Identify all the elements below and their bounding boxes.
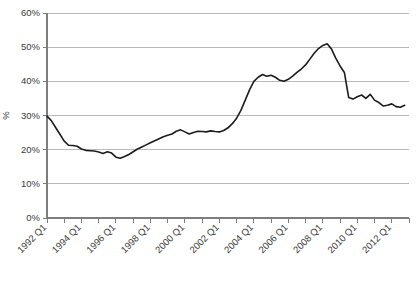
- y-tick-label-0: 0%: [26, 212, 40, 223]
- x-tick-label-2012: 2012 Q1: [360, 222, 394, 256]
- x-tick-label-2004: 2004 Q1: [222, 222, 256, 256]
- x-tick-label-2002: 2002 Q1: [187, 222, 221, 256]
- line-chart: 0%10%20%30%40%50%60% 1992 Q11994 Q11996 …: [0, 0, 416, 281]
- y-tick-label-50: 50%: [21, 41, 41, 52]
- x-tick-label-1994: 1994 Q1: [49, 222, 83, 256]
- y-axis-title: %: [0, 111, 11, 120]
- y-tick-label-10: 10%: [21, 178, 41, 189]
- y-tick-label-20: 20%: [21, 144, 41, 155]
- y-tick-label-60: 60%: [21, 7, 41, 18]
- y-axis-group: [43, 13, 47, 218]
- y-tick-label-30: 30%: [21, 110, 41, 121]
- x-tick-label-1996: 1996 Q1: [84, 222, 118, 256]
- x-tick-label-1998: 1998 Q1: [118, 222, 152, 256]
- chart-container: 0%10%20%30%40%50%60% 1992 Q11994 Q11996 …: [0, 0, 416, 281]
- x-axis-group: [47, 218, 409, 223]
- x-tick-label-2010: 2010 Q1: [325, 222, 359, 256]
- x-tick-labels-group: 1992 Q11994 Q11996 Q11998 Q12000 Q12002 …: [15, 222, 393, 256]
- data-line-series-1: [47, 44, 405, 158]
- gridlines-group: [47, 13, 409, 218]
- x-tick-label-2008: 2008 Q1: [291, 222, 325, 256]
- x-tick-label-1992: 1992 Q1: [15, 222, 49, 256]
- x-tick-label-2006: 2006 Q1: [256, 222, 290, 256]
- x-tick-label-2000: 2000 Q1: [153, 222, 187, 256]
- y-tick-labels-group: 0%10%20%30%40%50%60%: [21, 7, 41, 223]
- y-tick-label-40: 40%: [21, 75, 41, 86]
- data-series-group: [47, 44, 405, 158]
- y-axis-title-group: %: [0, 111, 11, 120]
